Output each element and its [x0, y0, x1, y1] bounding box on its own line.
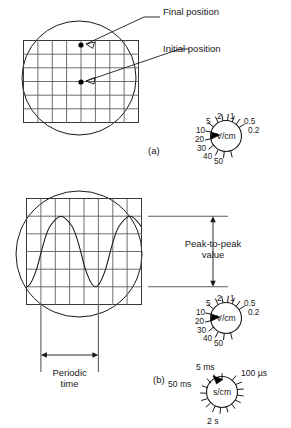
dial-setting-5-a: 5	[206, 117, 211, 126]
dial-setting-0.5-a: 0.5	[244, 117, 256, 126]
dial-setting-1-a: 1	[230, 112, 235, 121]
dial-setting-40-b: 40	[203, 334, 213, 343]
peak-to-peak-label-line1: Peak-to-peak	[185, 238, 242, 249]
volts-per-cm-dial-b[interactable]: V/cm 0.5 0.2 1 2 5 10 20 30 40	[195, 294, 260, 348]
dial-setting-10-a: 10	[196, 126, 206, 135]
graticule-b	[27, 199, 142, 305]
dial-setting-10-b: 10	[196, 308, 206, 317]
periodic-time-label-line2: time	[61, 378, 79, 389]
dial-setting-0.5-b: 0.5	[244, 299, 256, 308]
time-setting-2s: 2 s	[207, 416, 218, 426]
dial-unit-label-a: V/cm	[216, 131, 236, 141]
final-position-label: Final position	[163, 6, 219, 17]
dial-setting-5-b: 5	[206, 299, 211, 308]
periodic-time-dimension	[41, 305, 99, 373]
time-dial-unit-label: s/cm	[213, 387, 231, 397]
scope-screen-circle-a	[22, 21, 136, 135]
dial-setting-20-a: 20	[195, 135, 205, 144]
dial-setting-0.2-b: 0.2	[248, 308, 260, 317]
panel-a-label: (a)	[148, 145, 160, 156]
time-setting-100us: 100 µs	[241, 368, 267, 378]
figure-root: Final position Initial position (a) V/cm	[0, 0, 291, 428]
peak-to-peak-label-line2: value	[202, 249, 225, 260]
dial-setting-2-b: 2	[217, 294, 222, 303]
time-setting-5ms: 5 ms	[196, 362, 215, 372]
dial-setting-40-a: 40	[203, 152, 213, 161]
dial-setting-1-b: 1	[230, 294, 235, 303]
dial-setting-0.2-a: 0.2	[248, 126, 260, 135]
dial-setting-50-a: 50	[214, 157, 224, 166]
seconds-per-cm-dial[interactable]: s/cm 5 ms 100 µs 50 ms 2 s	[168, 362, 267, 426]
dial-unit-label-b: V/cm	[216, 313, 236, 323]
initial-position-label: Initial position	[163, 43, 221, 54]
dial-setting-50-b: 50	[214, 339, 224, 348]
initial-position-dot	[78, 79, 83, 84]
final-position-dot	[78, 42, 83, 47]
volts-per-cm-dial-a[interactable]: V/cm 0.5 0.2 1 2 5 10 20 30 40	[195, 112, 260, 166]
oscilloscope-figure: Final position Initial position (a) V/cm	[0, 0, 291, 428]
time-setting-50ms: 50 ms	[168, 379, 191, 389]
periodic-time-label-line1: Periodic	[52, 367, 87, 378]
dial-setting-2-a: 2	[217, 112, 222, 121]
panel-b-label: (b)	[153, 374, 165, 385]
panel-b: Peak-to-peak value Periodic time (b)	[16, 191, 241, 389]
panel-a: Final position Initial position (a)	[22, 6, 221, 156]
dial-setting-20-b: 20	[195, 317, 205, 326]
final-position-leader	[86, 17, 160, 48]
scope-screen-circle-b	[16, 191, 142, 317]
